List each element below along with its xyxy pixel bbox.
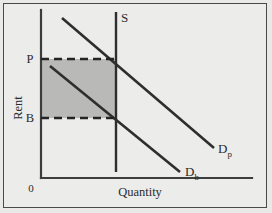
origin-label: 0: [28, 182, 34, 194]
y-axis-label: Rent: [11, 96, 25, 120]
demand-base-label-sub: b: [194, 172, 199, 182]
y-tick-label-p: P: [27, 52, 34, 66]
supply-demand-plot: S P B 0 Dp Db Quantity Rent: [0, 0, 272, 213]
x-axis-label: Quantity: [118, 185, 162, 199]
demand-base-label-main: D: [185, 164, 194, 179]
y-tick-label-b: B: [26, 111, 34, 125]
demand-base-label: Db: [185, 164, 199, 182]
demand-potential-label: Dp: [218, 141, 232, 159]
supply-curve-label: S: [121, 10, 128, 25]
demand-potential-label-main: D: [218, 141, 227, 156]
demand-potential-label-sub: p: [227, 149, 232, 159]
figure-container: S P B 0 Dp Db Quantity Rent: [0, 0, 272, 213]
